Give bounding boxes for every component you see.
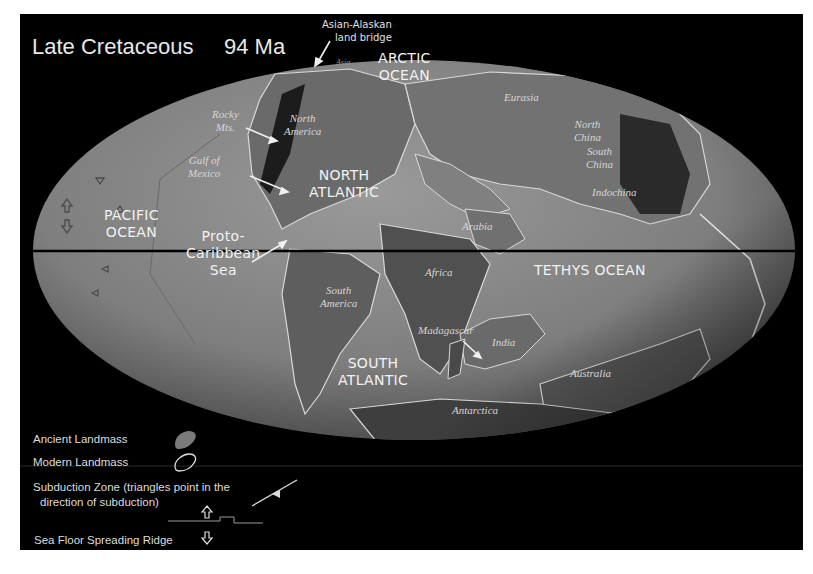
- north-atlantic-label: NORTH ATLANTIC: [309, 167, 379, 201]
- arabia-label: Arabia: [462, 220, 493, 233]
- legend-modern-landmass: Modern Landmass: [33, 455, 128, 470]
- ridge-down-arrow-icon: [202, 532, 212, 544]
- indochina-label: Indochina: [592, 186, 637, 199]
- subduction-triangle-icon: [272, 490, 280, 498]
- map-title: Late Cretaceous 94 Ma: [32, 34, 285, 60]
- proto-caribbean-label: Proto- Caribbean Sea: [186, 228, 261, 279]
- legend-subduction-zone: Subduction Zone (triangles point in the …: [33, 480, 230, 510]
- india-label: India: [492, 336, 515, 349]
- legend-spreading-ridge: Sea Floor Spreading Ridge: [34, 533, 173, 548]
- legend-ancient-landmass: Ancient Landmass: [33, 432, 128, 447]
- antarctica-label: Antarctica: [452, 404, 498, 417]
- rocky-mts-label: Rocky Mts.: [212, 108, 239, 134]
- pacific-ocean-label: PACIFIC OCEAN: [104, 207, 159, 241]
- south-america-label: South America: [320, 284, 357, 310]
- paleogeographic-map: [20, 14, 803, 550]
- australia-label: Australia: [570, 367, 611, 380]
- tethys-ocean-label: TETHYS OCEAN: [534, 262, 646, 279]
- south-china-label: South China: [586, 145, 613, 171]
- ridge-line-icon: [168, 517, 263, 523]
- asia-small-label: Asia: [336, 56, 350, 69]
- arctic-ocean-label: ARCTIC OCEAN: [378, 50, 431, 84]
- africa-label: Africa: [425, 266, 453, 279]
- map-panel: Late Cretaceous 94 Ma Asian-Alaskan land…: [20, 14, 803, 550]
- land-bridge-label: Asian-Alaskan land bridge: [322, 18, 392, 44]
- madagascar-label: Madagascar: [418, 324, 474, 337]
- period-label: Late Cretaceous: [32, 34, 193, 59]
- landmasses: [20, 14, 803, 550]
- ancient-landmass-icon: [175, 431, 196, 449]
- south-atlantic-label: SOUTH ATLANTIC: [338, 355, 408, 389]
- north-china-label: North China: [574, 118, 601, 144]
- gulf-of-mexico-label: Gulf of Mexico: [188, 154, 220, 180]
- north-america-label: North America: [284, 112, 321, 138]
- modern-landmass-icon: [175, 454, 196, 471]
- eurasia-label: Eurasia: [504, 91, 539, 104]
- age-label: 94 Ma: [224, 34, 285, 59]
